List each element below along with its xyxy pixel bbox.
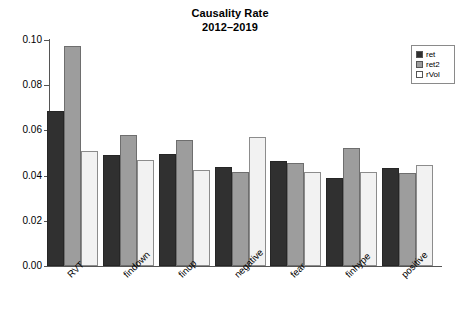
bar-RVT-rVol: [81, 151, 98, 266]
bar-fear-rVol: [304, 172, 321, 266]
y-tick-label: 0.10: [0, 35, 42, 45]
legend-swatch-rvol: [416, 71, 423, 78]
y-tick-label: 0.08: [0, 80, 42, 90]
bar-negative-ret2: [232, 172, 249, 266]
legend-label-ret: ret: [426, 51, 435, 59]
y-tick-label: 0.06: [0, 125, 42, 135]
bar-positive-ret: [382, 168, 399, 266]
bar-fear-ret: [270, 161, 287, 266]
bar-finup-ret: [159, 154, 176, 266]
legend-swatch-ret: [416, 51, 423, 58]
chart-title: Causality Rate: [0, 6, 460, 20]
y-tick-label: 0.02: [0, 216, 42, 226]
bar-findown-ret2: [120, 135, 137, 266]
x-axis-labels: RVTfindownfinupnegativefearfinhypepositi…: [0, 266, 460, 332]
causality-rate-bar-chart: Causality Rate 2012–2019 0.100.080.060.0…: [0, 0, 460, 332]
legend-label-rvol: rVol: [426, 71, 440, 79]
legend-swatch-ret2: [416, 61, 423, 68]
bar-fear-ret2: [287, 163, 304, 266]
bar-series-container: [50, 40, 440, 266]
chart-legend: ret ret2 rVol: [411, 45, 455, 84]
legend-item-rvol: rVol: [416, 70, 451, 79]
chart-subtitle: 2012–2019: [0, 20, 460, 34]
bar-negative-ret: [215, 167, 232, 266]
bar-finhype-ret2: [343, 148, 360, 266]
bar-finhype-ret: [326, 178, 343, 266]
bar-positive-ret2: [399, 173, 416, 266]
chart-title-block: Causality Rate 2012–2019: [0, 6, 460, 34]
legend-item-ret2: ret2: [416, 60, 451, 69]
plot-area: [50, 40, 440, 266]
bar-finup-ret2: [176, 140, 193, 266]
y-tick-label: 0.04: [0, 171, 42, 181]
legend-label-ret2: ret2: [426, 61, 440, 69]
bar-finup-rVol: [193, 170, 210, 267]
bar-findown-ret: [103, 155, 120, 266]
bar-RVT-ret2: [64, 46, 81, 266]
legend-item-ret: ret: [416, 50, 451, 59]
bar-RVT-ret: [47, 111, 64, 266]
